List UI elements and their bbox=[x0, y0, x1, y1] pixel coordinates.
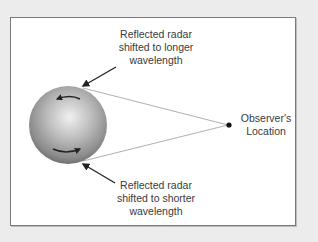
label-line: Location bbox=[234, 125, 298, 138]
label-line: wavelength bbox=[102, 54, 210, 67]
label-line: shifted to longer bbox=[102, 41, 210, 54]
label-line: Observer's bbox=[234, 112, 298, 125]
label-longer-wavelength: Reflected radar shifted to longer wavele… bbox=[102, 28, 210, 67]
label-observer-location: Observer's Location bbox=[234, 112, 298, 138]
label-line: Reflected radar bbox=[102, 28, 210, 41]
observer-dot-icon bbox=[226, 122, 231, 127]
pointer-arrow-top-icon bbox=[83, 67, 116, 86]
label-line: shifted to shorter bbox=[100, 192, 212, 205]
label-line: wavelength bbox=[100, 205, 212, 218]
label-line: Reflected radar bbox=[100, 179, 212, 192]
label-shorter-wavelength: Reflected radar shifted to shorter wavel… bbox=[100, 179, 212, 218]
